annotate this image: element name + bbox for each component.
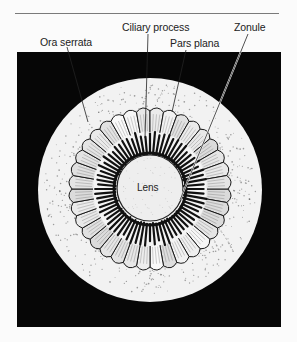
lens-dot xyxy=(133,208,134,209)
stipple-dot xyxy=(82,264,83,265)
stipple-dot xyxy=(164,90,165,91)
lens-dot xyxy=(155,167,156,168)
stipple-dot xyxy=(237,149,238,150)
stipple-dot xyxy=(225,134,226,135)
stipple-dot xyxy=(137,287,139,289)
stipple-dot xyxy=(134,95,136,97)
stipple-dot xyxy=(162,93,163,94)
stipple-dot xyxy=(51,158,52,159)
lens-dot xyxy=(132,206,133,207)
lens-dot xyxy=(141,212,142,213)
stipple-dot xyxy=(178,105,179,106)
stipple-dot xyxy=(235,202,236,203)
stipple-dot xyxy=(152,270,153,271)
stipple-dot xyxy=(227,238,228,239)
stipple-dot xyxy=(107,99,109,101)
stipple-dot xyxy=(79,115,80,116)
stipple-dot xyxy=(81,239,82,240)
stipple-dot xyxy=(230,245,231,246)
stipple-dot xyxy=(218,265,219,266)
stipple-dot xyxy=(119,267,120,268)
stipple-dot xyxy=(58,169,60,171)
stipple-dot xyxy=(249,199,250,200)
stipple-dot xyxy=(233,217,234,218)
stipple-dot xyxy=(216,245,217,246)
stipple-dot xyxy=(144,286,145,287)
stipple-dot xyxy=(177,112,178,113)
stipple-dot xyxy=(226,137,227,138)
stipple-dot xyxy=(224,250,226,252)
stipple-dot xyxy=(167,86,168,87)
lens-dot xyxy=(125,188,126,189)
stipple-dot xyxy=(202,255,203,256)
stipple-dot xyxy=(237,166,238,167)
stipple-dot xyxy=(202,259,203,260)
stipple-dot xyxy=(224,259,225,260)
stipple-dot xyxy=(237,177,238,178)
label-ciliary-process: Ciliary process xyxy=(122,21,189,33)
lens-dot xyxy=(171,192,172,193)
stipple-dot xyxy=(98,111,100,113)
lens-dot xyxy=(169,206,170,207)
stipple-dot xyxy=(250,203,251,204)
stipple-dot xyxy=(192,281,193,282)
stipple-dot xyxy=(75,141,76,142)
stipple-dot xyxy=(189,109,191,111)
stipple-dot xyxy=(236,148,238,150)
lens-dot xyxy=(151,212,152,213)
lens-dot xyxy=(152,172,153,173)
stipple-dot xyxy=(145,98,146,99)
stipple-dot xyxy=(229,136,230,137)
stipple-dot xyxy=(152,85,153,86)
stipple-dot xyxy=(205,269,206,270)
stipple-dot xyxy=(88,116,89,117)
stipple-dot xyxy=(85,107,86,108)
stipple-dot xyxy=(72,146,74,148)
stipple-dot xyxy=(97,105,98,106)
stipple-dot xyxy=(204,255,205,256)
stipple-dot xyxy=(124,92,125,93)
stipple-dot xyxy=(218,259,220,261)
stipple-dot xyxy=(213,265,214,266)
stipple-dot xyxy=(46,179,48,181)
stipple-dot xyxy=(174,86,175,87)
stipple-dot xyxy=(115,277,116,278)
stipple-dot xyxy=(90,265,91,266)
stipple-dot xyxy=(194,105,195,106)
stipple-dot xyxy=(216,132,217,133)
stipple-dot xyxy=(228,242,230,244)
stipple-dot xyxy=(130,95,131,96)
stipple-dot xyxy=(162,90,163,91)
stipple-dot xyxy=(243,210,244,211)
lens-dot xyxy=(126,171,127,172)
lens-dot xyxy=(137,161,138,162)
stipple-dot xyxy=(162,101,163,102)
lens-dot xyxy=(150,170,151,171)
stipple-dot xyxy=(142,103,144,105)
stipple-dot xyxy=(73,234,75,236)
stipple-dot xyxy=(240,237,241,238)
stipple-dot xyxy=(138,273,140,275)
stipple-dot xyxy=(242,166,243,167)
stipple-dot xyxy=(189,282,190,283)
lens-dot xyxy=(133,198,134,199)
stipple-dot xyxy=(102,110,103,111)
stipple-dot xyxy=(89,124,90,125)
stipple-dot xyxy=(47,209,48,210)
lens-dot xyxy=(171,177,172,178)
stipple-dot xyxy=(220,230,221,231)
stipple-dot xyxy=(206,100,207,101)
stipple-dot xyxy=(163,281,164,282)
lens-dot xyxy=(160,175,161,176)
stipple-dot xyxy=(185,278,186,279)
stipple-dot xyxy=(241,238,242,239)
stipple-dot xyxy=(237,192,238,193)
stipple-dot xyxy=(142,289,143,290)
stipple-dot xyxy=(222,149,223,150)
stipple-dot xyxy=(95,102,96,103)
stipple-dot xyxy=(159,97,160,98)
stipple-dot xyxy=(246,183,247,184)
stipple-dot xyxy=(190,116,191,117)
stipple-dot xyxy=(206,105,208,107)
stipple-dot xyxy=(239,190,240,191)
